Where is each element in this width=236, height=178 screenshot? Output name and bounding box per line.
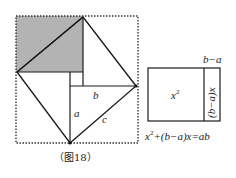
vertex-right <box>135 85 138 88</box>
shaded-square <box>16 16 83 72</box>
equation-rest: +(b−a)x=ab <box>153 130 210 143</box>
label-c: c <box>102 113 107 125</box>
label-b: b <box>93 89 99 101</box>
x-squared-exp: 2 <box>176 88 180 96</box>
equation: x2+(b−a)x=ab <box>144 129 210 143</box>
figure-caption: （图18） <box>54 152 97 163</box>
vertex-bottom <box>69 142 72 145</box>
label-b-minus-a: b−a <box>203 53 222 65</box>
label-x-squared: x2 <box>170 88 180 101</box>
label-a: a <box>74 107 80 119</box>
label-strip: (b−a)x <box>205 87 218 118</box>
pythagoras-diagram: b a c b−a x2 (b−a)x x2+(b−a)x=ab （图18） <box>0 0 236 178</box>
